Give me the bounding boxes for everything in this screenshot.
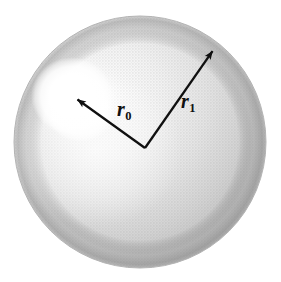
sphere-diagram-svg [0, 0, 281, 282]
vector-r0-label: r0 [117, 99, 131, 119]
vector-r1-label-subscript: 1 [189, 101, 195, 115]
vector-r1-label: r1 [181, 91, 195, 111]
specular-highlight-secondary [46, 82, 114, 142]
vector-r1-label-base: r [181, 90, 189, 112]
figure-canvas: r0 r1 [0, 0, 281, 282]
vector-r0-label-subscript: 0 [125, 109, 131, 123]
vector-r0-label-base: r [117, 98, 125, 120]
